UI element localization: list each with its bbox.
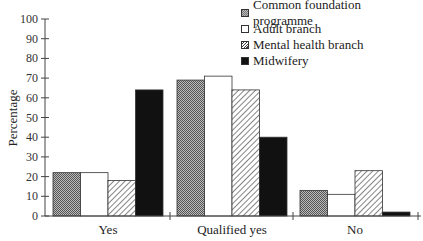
y-tick-label: 30: [26, 150, 38, 164]
bar: [136, 90, 164, 216]
x-category-label: No: [347, 222, 363, 237]
x-category-label: Qualified yes: [197, 222, 267, 237]
bar: [300, 190, 328, 216]
y-tick-label: 90: [26, 32, 38, 46]
bar: [53, 173, 81, 216]
legend-item-common-foundation: Common foundation programme: [241, 5, 423, 21]
bars: [53, 76, 410, 216]
bar: [355, 171, 383, 216]
y-tick-label: 10: [26, 189, 38, 203]
y-axis: 0102030405060708090100: [20, 12, 49, 223]
y-tick-label: 0: [32, 209, 38, 223]
bar: [108, 181, 136, 216]
legend: Common foundation programme Adult branch…: [241, 5, 423, 69]
bar: [260, 137, 288, 216]
x-category-label: Yes: [99, 222, 118, 237]
black-swatch-icon: [241, 57, 249, 65]
white-swatch-icon: [241, 25, 249, 33]
hatched-swatch-icon: [241, 41, 249, 49]
y-tick-label: 70: [26, 71, 38, 85]
y-tick-label: 20: [26, 170, 38, 184]
y-tick-label: 100: [20, 12, 38, 26]
x-axis: YesQualified yesNo: [45, 212, 421, 237]
y-tick-label: 40: [26, 130, 38, 144]
bar: [232, 90, 260, 216]
y-axis-label: Percentage: [5, 89, 20, 146]
y-tick-label: 50: [26, 111, 38, 125]
bar: [383, 212, 411, 216]
bar: [205, 76, 233, 216]
bar: [81, 173, 109, 216]
bar: [328, 194, 356, 216]
bar: [177, 80, 205, 216]
legend-item-midwifery: Midwifery: [241, 53, 423, 69]
legend-item-mental-health: Mental health branch: [241, 37, 423, 53]
checkered-swatch-icon: [241, 9, 249, 17]
y-tick-label: 60: [26, 91, 38, 105]
y-tick-label: 80: [26, 51, 38, 65]
